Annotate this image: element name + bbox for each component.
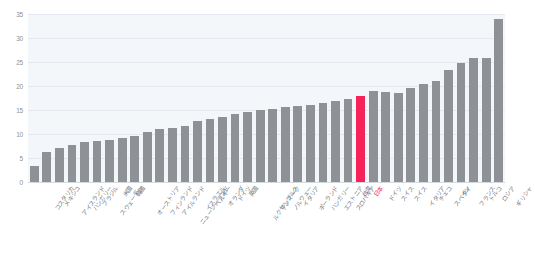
y-tick-label-35: 35 — [16, 11, 23, 18]
bar[interactable] — [344, 99, 353, 182]
bar-slot[interactable] — [367, 14, 380, 182]
bar-highlighted[interactable] — [356, 96, 365, 182]
bar-slot[interactable] — [405, 14, 418, 182]
bar[interactable] — [206, 119, 215, 182]
bar-slot[interactable] — [279, 14, 292, 182]
bar-slot[interactable] — [229, 14, 242, 182]
bar[interactable] — [155, 129, 164, 182]
bar[interactable] — [105, 140, 114, 182]
bar[interactable] — [394, 93, 403, 182]
bar-slot[interactable] — [329, 14, 342, 182]
bar[interactable] — [482, 58, 491, 182]
bar-slot[interactable] — [179, 14, 192, 182]
bar-slot[interactable] — [467, 14, 480, 182]
y-tick-label-15: 15 — [16, 107, 23, 114]
bar-slot[interactable] — [53, 14, 66, 182]
bar[interactable] — [243, 112, 252, 182]
x-axis-label: ギリシャ — [514, 184, 534, 208]
y-tick-label-30: 30 — [16, 35, 23, 42]
bar[interactable] — [193, 121, 202, 182]
bar-slot[interactable] — [78, 14, 91, 182]
bar-slot[interactable] — [128, 14, 141, 182]
x-axis-label: スイス — [411, 184, 428, 203]
bar[interactable] — [369, 91, 378, 182]
bar[interactable] — [268, 109, 277, 182]
bar-slot[interactable] — [392, 14, 405, 182]
bar-slot[interactable] — [492, 14, 505, 182]
bar-slot[interactable] — [141, 14, 154, 182]
gridline-0 — [28, 182, 505, 183]
bars-container — [28, 14, 505, 182]
bar-slot[interactable] — [216, 14, 229, 182]
bar-slot[interactable] — [154, 14, 167, 182]
bar[interactable] — [231, 114, 240, 182]
bar-slot[interactable] — [66, 14, 79, 182]
bar[interactable] — [281, 107, 290, 182]
bar[interactable] — [55, 148, 64, 182]
bar[interactable] — [381, 92, 390, 182]
bar[interactable] — [444, 70, 453, 182]
bar[interactable] — [42, 152, 51, 182]
bar-slot[interactable] — [166, 14, 179, 182]
y-tick-label-25: 25 — [16, 59, 23, 66]
bar[interactable] — [80, 142, 89, 182]
y-axis: 05101520253035 — [0, 14, 28, 182]
bar[interactable] — [331, 101, 340, 182]
bar-slot[interactable] — [354, 14, 367, 182]
bar[interactable] — [168, 128, 177, 182]
bar[interactable] — [118, 138, 127, 182]
bar-slot[interactable] — [292, 14, 305, 182]
bar-slot[interactable] — [417, 14, 430, 182]
y-tick-label-5: 5 — [20, 155, 23, 162]
bar[interactable] — [218, 117, 227, 182]
bar-slot[interactable] — [28, 14, 41, 182]
y-tick-label-0: 0 — [20, 179, 23, 186]
bar[interactable] — [406, 88, 415, 182]
bar-slot[interactable] — [304, 14, 317, 182]
bar[interactable] — [93, 141, 102, 182]
bar-slot[interactable] — [267, 14, 280, 182]
bar[interactable] — [293, 106, 302, 182]
x-axis-labels: コスタリカメキシコアイスランドハンガリーブラジルスウェーデン米国韓国オーストリア… — [28, 184, 505, 262]
y-tick-label-10: 10 — [16, 131, 23, 138]
bar[interactable] — [30, 166, 39, 182]
bar-slot[interactable] — [317, 14, 330, 182]
bar[interactable] — [494, 19, 503, 182]
bar[interactable] — [419, 84, 428, 182]
bar-slot[interactable] — [430, 14, 443, 182]
bar-slot[interactable] — [342, 14, 355, 182]
bar-slot[interactable] — [116, 14, 129, 182]
bar-slot[interactable] — [455, 14, 468, 182]
bar[interactable] — [130, 136, 139, 182]
bar[interactable] — [143, 132, 152, 182]
bar-slot[interactable] — [91, 14, 104, 182]
bar[interactable] — [469, 58, 478, 182]
bar-slot[interactable] — [204, 14, 217, 182]
bar[interactable] — [256, 110, 265, 182]
y-tick-label-20: 20 — [16, 83, 23, 90]
bar-slot[interactable] — [191, 14, 204, 182]
bar[interactable] — [457, 63, 466, 182]
bar[interactable] — [306, 105, 315, 182]
bar[interactable] — [181, 126, 190, 182]
bar-slot[interactable] — [254, 14, 267, 182]
bar-slot[interactable] — [379, 14, 392, 182]
bar-slot[interactable] — [241, 14, 254, 182]
bar[interactable] — [432, 81, 441, 182]
bar-slot[interactable] — [442, 14, 455, 182]
bar-slot[interactable] — [41, 14, 54, 182]
bar-slot[interactable] — [480, 14, 493, 182]
bar-slot[interactable] — [103, 14, 116, 182]
bar[interactable] — [68, 145, 77, 182]
bar[interactable] — [319, 103, 328, 182]
